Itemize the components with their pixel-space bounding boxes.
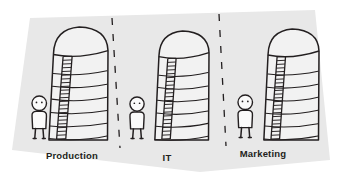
silo-production	[49, 27, 108, 140]
person-leg-right	[43, 129, 44, 139]
person-torso	[238, 110, 253, 127]
person-head	[32, 96, 47, 111]
silo-label-production: Production	[46, 150, 98, 161]
person-leg-left	[241, 128, 242, 138]
silo-label-marketing: Marketing	[240, 148, 287, 159]
silos-illustration: Production IT Marketing	[0, 0, 341, 181]
silo-it	[155, 31, 209, 140]
person-torso	[130, 112, 144, 129]
person-eye-right	[247, 101, 249, 103]
illustration-canvas: Production IT Marketing	[0, 0, 341, 181]
person-leg-left	[133, 129, 134, 139]
silo-marketing	[264, 29, 319, 140]
person-torso	[32, 111, 47, 128]
person-eye-left	[133, 102, 135, 104]
person-head	[130, 97, 144, 111]
person-eye-left	[242, 101, 244, 103]
person-eye-right	[139, 102, 141, 104]
drawing-group	[32, 14, 319, 148]
person-eye-left	[36, 102, 38, 104]
person-leg-right	[249, 128, 250, 138]
person-leg-right	[141, 129, 142, 139]
person-eye-right	[41, 102, 43, 104]
person-leg-left	[35, 129, 36, 139]
person-head	[238, 95, 253, 110]
silo-label-it: IT	[163, 152, 172, 163]
